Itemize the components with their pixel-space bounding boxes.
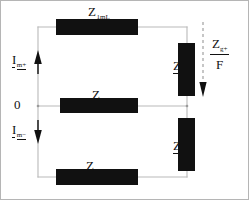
label-current-negative-symbol: I — [12, 122, 16, 137]
label-impedance-middle-symbol: Z — [92, 87, 100, 102]
fraction-numerator-subscript: g+ — [220, 45, 227, 53]
fraction-bar — [210, 54, 229, 55]
label-impedance-positive-subscript: + — [181, 67, 185, 75]
label-current-negative: Im− — [12, 121, 26, 139]
node-dot-right — [186, 105, 189, 108]
label-impedance-middle-subscript: aL — [100, 96, 107, 104]
label-impedance-negative: Z− — [173, 137, 185, 155]
fraction-denominator: F — [210, 56, 229, 73]
circuit-schematic-canvas — [0, 0, 249, 200]
circuit-diagram: Z1mL ZaL Z1mL Z+ Z− Im+ Im− 0 Zg+ F — [0, 0, 249, 200]
label-source-impedance-fraction: Zg+ F — [210, 36, 229, 73]
label-current-negative-subscript: m− — [17, 131, 26, 139]
label-impedance-top: Z1mL — [88, 3, 110, 21]
label-impedance-positive-symbol: Z — [173, 58, 181, 73]
label-impedance-negative-symbol: Z — [173, 138, 181, 153]
label-impedance-negative-subscript: − — [181, 147, 185, 155]
fraction-numerator: Zg+ — [210, 36, 229, 54]
label-impedance-top-subscript: 1mL — [96, 13, 109, 21]
label-impedance-middle: ZaL — [92, 86, 108, 104]
label-node-zero: 0 — [14, 96, 21, 112]
label-current-positive-subscript: m+ — [17, 61, 26, 69]
label-impedance-positive: Z+ — [173, 57, 185, 75]
label-current-positive: Im+ — [12, 51, 26, 69]
label-impedance-bottom-subscript: 1mL — [94, 167, 107, 175]
label-impedance-bottom-symbol: Z — [86, 158, 94, 173]
label-node-zero-symbol: 0 — [14, 97, 21, 112]
fraction-numerator-symbol: Z — [212, 36, 220, 51]
label-current-positive-symbol: I — [12, 52, 16, 67]
node-dot-left — [37, 105, 40, 108]
label-impedance-bottom: Z1mL — [86, 157, 108, 175]
label-impedance-top-symbol: Z — [88, 4, 96, 19]
